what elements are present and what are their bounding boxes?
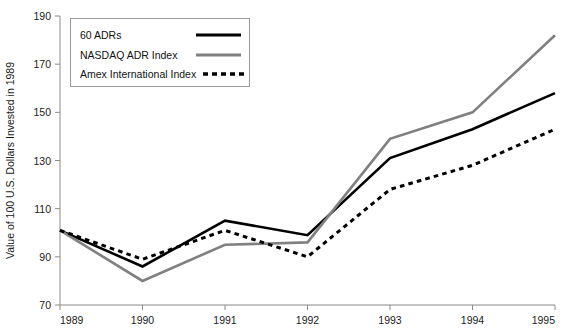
y-axis-tick-label: 130 (33, 155, 51, 167)
legend-swatch-solid-black (196, 30, 241, 40)
x-axis-tick-label: 1989 (60, 314, 84, 326)
y-axis-tick-label: 90 (39, 251, 51, 263)
y-axis-tick-label: 110 (34, 203, 51, 215)
series-line (60, 129, 555, 259)
chart-container: 7090110130150170190198919901991199219931… (0, 0, 566, 334)
legend-item-amex-international-index: Amex International Index (80, 64, 241, 84)
x-axis-tick-label: 1994 (461, 314, 485, 326)
x-axis-tick-label: 1990 (131, 314, 155, 326)
legend-swatch-solid-gray (196, 50, 241, 60)
y-axis-title: Value of 100 U.S. Dollars Invested in 19… (4, 62, 16, 259)
legend-item-60-adrs: 60 ADRs (80, 25, 241, 45)
x-axis-tick-label: 1993 (378, 314, 402, 326)
y-axis-title-group: Value of 100 U.S. Dollars Invested in 19… (4, 62, 16, 259)
x-axis-tick-label: 1995 (532, 314, 556, 326)
legend-item-nasdaq-adr-index: NASDAQ ADR Index (80, 45, 241, 65)
y-axis-tick-label: 190 (33, 10, 51, 22)
y-axis-tick-label: 150 (33, 106, 51, 118)
legend-label-60-adrs: 60 ADRs (80, 30, 121, 41)
x-axis-tick-label: 1992 (296, 314, 320, 326)
y-axis-tick-label: 170 (33, 58, 51, 70)
legend-swatch-dotted-black (202, 69, 247, 79)
x-axis-tick-label: 1991 (213, 314, 237, 326)
y-axis-tick-label: 70 (39, 299, 51, 311)
legend-label-amex-international-index: Amex International Index (80, 69, 196, 80)
legend-label-nasdaq-adr-index: NASDAQ ADR Index (80, 50, 177, 61)
chart-legend: 60 ADRs NASDAQ ADR Index Amex Internatio… (70, 18, 250, 87)
